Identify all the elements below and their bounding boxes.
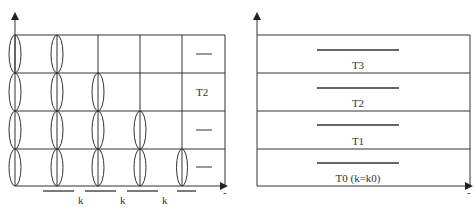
band-label-t1: T1 bbox=[352, 135, 364, 147]
band-label-t2: T2 bbox=[352, 97, 364, 109]
x-axis-end-mark: - bbox=[223, 186, 227, 198]
row-label-t2: T2 bbox=[196, 86, 208, 98]
left-diagram bbox=[9, 14, 226, 191]
band-label-t0: T0 (k=k0) bbox=[336, 172, 381, 185]
x-label-k-3: k bbox=[162, 194, 168, 206]
diagram-canvas: T2 k k k - T3 T2 T1 T0 (k=k0) - bbox=[0, 0, 475, 212]
x-label-k-1: k bbox=[78, 194, 84, 206]
x-label-k-2: k bbox=[120, 194, 126, 206]
band-label-t3: T3 bbox=[352, 59, 365, 71]
right-x-axis-end-mark: - bbox=[467, 186, 471, 198]
